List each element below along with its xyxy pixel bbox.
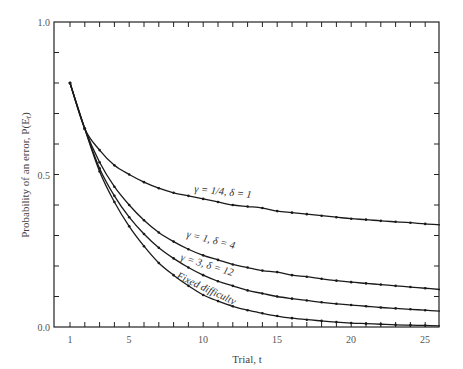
data-point bbox=[128, 216, 131, 219]
data-point bbox=[202, 198, 205, 201]
data-point bbox=[335, 216, 338, 219]
data-point bbox=[261, 292, 264, 295]
data-point bbox=[306, 213, 309, 216]
curve-line-1 bbox=[70, 83, 440, 289]
data-point bbox=[187, 195, 190, 198]
data-point bbox=[143, 181, 146, 184]
x-tick-label-15: 15 bbox=[272, 334, 282, 345]
data-point bbox=[394, 285, 397, 288]
data-point bbox=[217, 259, 220, 262]
data-point bbox=[143, 219, 146, 222]
data-point bbox=[291, 274, 294, 277]
data-point bbox=[128, 204, 131, 207]
data-point bbox=[187, 248, 190, 251]
data-point bbox=[246, 309, 249, 312]
data-point bbox=[202, 274, 205, 277]
data-point bbox=[350, 304, 353, 307]
data-point bbox=[276, 271, 279, 274]
x-tick-label-1: 1 bbox=[68, 334, 73, 345]
data-point bbox=[365, 305, 368, 308]
data-point bbox=[320, 214, 323, 217]
y-tick-label-0-5: 0.5 bbox=[38, 170, 51, 181]
curve-line-3 bbox=[70, 83, 440, 326]
y-tick-label-0: 0.0 bbox=[38, 322, 51, 333]
data-point bbox=[172, 192, 175, 195]
data-point bbox=[424, 223, 427, 226]
data-point bbox=[128, 225, 131, 228]
data-point bbox=[380, 323, 383, 326]
data-point bbox=[291, 297, 294, 300]
axis-ticks bbox=[54, 22, 439, 327]
data-point bbox=[158, 262, 161, 265]
data-point bbox=[172, 274, 175, 277]
data-point bbox=[172, 240, 175, 243]
x-axis-title: Trial, t bbox=[232, 353, 262, 365]
data-point bbox=[143, 245, 146, 248]
data-point bbox=[335, 321, 338, 324]
data-point bbox=[320, 320, 323, 323]
data-point bbox=[113, 185, 116, 188]
data-point bbox=[128, 173, 131, 176]
data-point bbox=[261, 269, 264, 272]
data-point bbox=[113, 195, 116, 198]
x-tick-label-25: 25 bbox=[420, 334, 430, 345]
data-point bbox=[232, 204, 235, 207]
data-point bbox=[335, 279, 338, 282]
x-tick-label-20: 20 bbox=[346, 334, 356, 345]
data-point bbox=[409, 324, 412, 327]
data-point bbox=[306, 318, 309, 321]
y-tick-label-1: 1.0 bbox=[38, 17, 51, 28]
data-point bbox=[409, 221, 412, 224]
data-point bbox=[113, 201, 116, 204]
data-point bbox=[380, 283, 383, 286]
data-point bbox=[276, 315, 279, 318]
data-point bbox=[409, 286, 412, 289]
data-point bbox=[202, 254, 205, 257]
data-point bbox=[217, 201, 220, 204]
data-point bbox=[202, 294, 205, 297]
data-point bbox=[158, 187, 161, 190]
data-point bbox=[158, 246, 161, 249]
data-point bbox=[306, 299, 309, 302]
data-point bbox=[380, 220, 383, 223]
data-point bbox=[187, 266, 190, 269]
data-point bbox=[291, 317, 294, 320]
data-point bbox=[394, 324, 397, 327]
data-point bbox=[350, 322, 353, 325]
data-point bbox=[380, 306, 383, 309]
data-point bbox=[261, 207, 264, 210]
data-point bbox=[98, 161, 101, 164]
curve-label-gamma-quarter: γ = 1/4, δ = 1 bbox=[194, 183, 252, 200]
x-tick-label-5: 5 bbox=[127, 334, 132, 345]
plot-frame bbox=[54, 22, 439, 327]
data-point bbox=[217, 280, 220, 283]
data-point bbox=[261, 312, 264, 315]
data-point bbox=[69, 82, 72, 85]
data-point bbox=[306, 275, 309, 278]
data-point bbox=[350, 217, 353, 220]
data-point bbox=[84, 127, 87, 130]
data-point bbox=[365, 218, 368, 221]
x-tick-label-10: 10 bbox=[198, 334, 208, 345]
data-point bbox=[98, 149, 101, 152]
data-point bbox=[320, 301, 323, 304]
curve-label-gamma-1: γ = 1, δ = 4 bbox=[186, 228, 237, 251]
data-point bbox=[246, 266, 249, 269]
data-point bbox=[365, 322, 368, 325]
data-point bbox=[232, 285, 235, 288]
data-point bbox=[424, 324, 427, 327]
data-point bbox=[350, 281, 353, 284]
data-point bbox=[143, 233, 146, 236]
data-point bbox=[113, 164, 116, 167]
data-point bbox=[172, 257, 175, 260]
data-point bbox=[424, 309, 427, 312]
data-point bbox=[409, 308, 412, 311]
y-axis-title: Probability of an error, P(Et) bbox=[19, 112, 33, 238]
data-point bbox=[246, 289, 249, 292]
data-point bbox=[158, 231, 161, 234]
data-point bbox=[276, 295, 279, 298]
curve-line-2 bbox=[70, 83, 440, 311]
data-point bbox=[424, 287, 427, 290]
data-point bbox=[232, 263, 235, 266]
curve-line-0 bbox=[70, 83, 440, 225]
